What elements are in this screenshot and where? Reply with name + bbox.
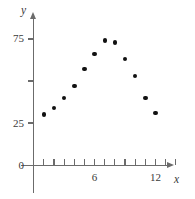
y-axis-line [33, 18, 34, 193]
x-tick-5 [84, 159, 85, 165]
y-tick-label-25: 25 [0, 118, 24, 129]
data-point [82, 67, 86, 71]
x-tick-3 [64, 159, 65, 165]
data-point [92, 52, 96, 56]
y-tick-label-75: 75 [0, 33, 24, 44]
x-tick-2 [53, 159, 54, 165]
y-tick-50 [28, 80, 34, 81]
x-tick-12 [155, 159, 156, 165]
x-tick-10 [135, 159, 136, 165]
data-point [52, 106, 56, 110]
x-tick-label-6: 6 [83, 172, 107, 183]
x-tick-4 [74, 159, 75, 165]
scatter-plot: y x 02575 612 [0, 0, 195, 199]
x-tick-9 [124, 159, 125, 165]
x-tick-1 [43, 159, 44, 165]
x-tick-14 [175, 159, 176, 165]
y-tick-25 [28, 122, 34, 123]
data-point [62, 96, 66, 100]
x-tick-7 [104, 159, 105, 165]
data-point [103, 38, 107, 42]
y-tick-0 [28, 165, 34, 166]
x-tick-11 [145, 159, 146, 165]
data-point [113, 40, 117, 44]
x-axis-arrow-icon [167, 162, 174, 168]
y-axis-arrow-icon [30, 12, 36, 19]
data-point [153, 111, 157, 115]
x-tick-label-12: 12 [144, 172, 168, 183]
x-tick-8 [114, 159, 115, 165]
x-tick-6 [94, 159, 95, 165]
y-tick-label-0: 0 [0, 160, 24, 171]
y-tick-75 [28, 38, 34, 39]
x-tick-13 [165, 159, 166, 165]
data-point [42, 112, 46, 116]
data-point [133, 74, 137, 78]
data-point [123, 57, 127, 61]
data-point [143, 96, 147, 100]
x-axis-label: x [174, 174, 179, 186]
y-axis-label: y [21, 5, 26, 17]
x-axis-line [21, 165, 168, 166]
data-point [72, 84, 76, 88]
